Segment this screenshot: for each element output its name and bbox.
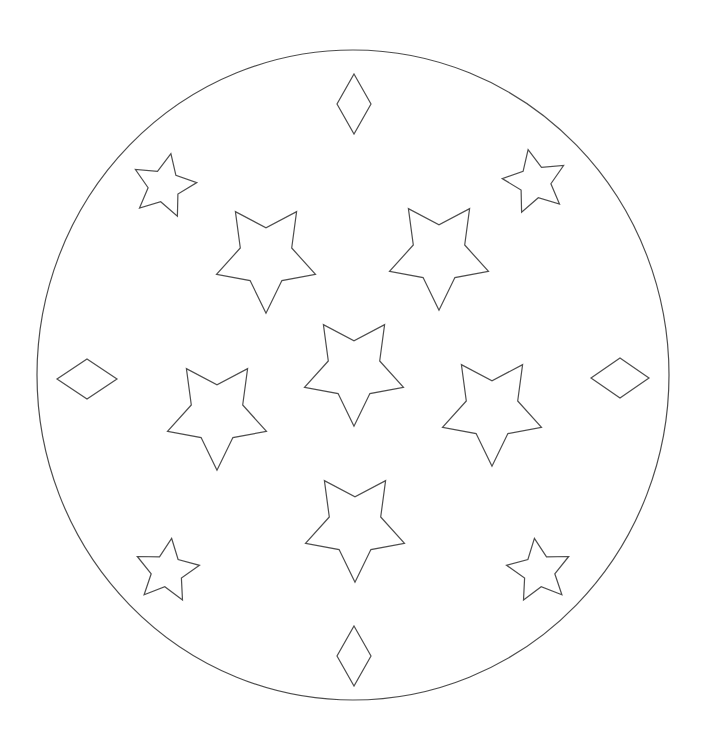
- drawing-svg: [0, 0, 706, 745]
- coloring-page: [0, 0, 706, 745]
